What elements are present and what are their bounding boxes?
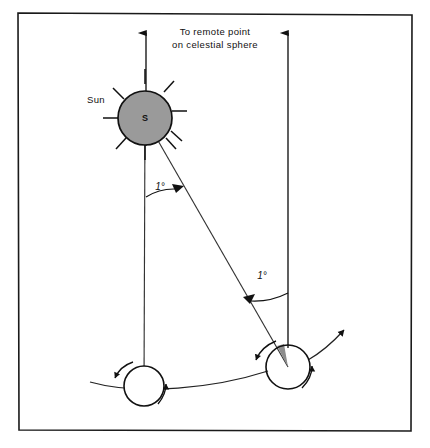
angle-label-at-sun: 1° <box>155 181 165 192</box>
earth-position-1-disc <box>124 366 164 406</box>
caption-line-2: on celestial sphere <box>172 39 258 50</box>
diagram-canvas: S Sun 1° 1° To remote point on celestial… <box>0 0 430 448</box>
astronomy-diagram-figure: S Sun 1° 1° To remote point on celestial… <box>0 0 430 448</box>
sun-center-label: S <box>142 113 148 123</box>
caption-line-1: To remote point <box>180 26 251 37</box>
angle-label-at-earth: 1° <box>257 270 267 281</box>
sun-label: Sun <box>87 94 105 105</box>
page-background <box>0 0 430 448</box>
